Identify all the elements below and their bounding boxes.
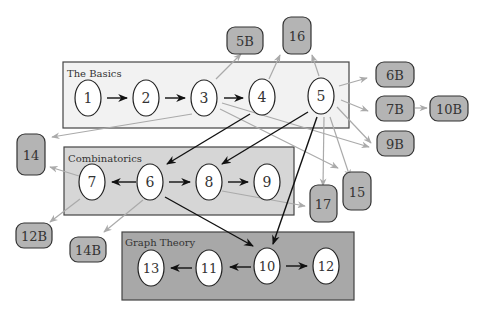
ext-10B[interactable]: 10B	[430, 96, 468, 121]
ext-17-label: 17	[315, 197, 332, 212]
node-13-label: 13	[143, 261, 160, 276]
node-1[interactable]: 1	[75, 80, 101, 116]
node-5-label: 5	[317, 88, 326, 104]
node-8[interactable]: 8	[196, 164, 222, 200]
ext-9B[interactable]: 9B	[377, 131, 414, 156]
ext-14[interactable]: 14	[17, 134, 45, 175]
node-11[interactable]: 11	[196, 250, 222, 286]
node-3[interactable]: 3	[191, 80, 217, 116]
ext-10B-label: 10B	[436, 102, 462, 117]
ext-15-label: 15	[349, 185, 366, 200]
ext-16[interactable]: 16	[283, 17, 311, 54]
ext-16-label: 16	[289, 29, 306, 44]
ext-14B[interactable]: 14B	[70, 237, 106, 262]
node-7-label: 7	[88, 174, 97, 190]
ext-12B-label: 12B	[21, 229, 47, 244]
ext-5B[interactable]: 5B	[227, 27, 263, 54]
node-12[interactable]: 12	[313, 248, 339, 284]
node-9-label: 9	[263, 174, 272, 190]
node-11-label: 11	[201, 261, 218, 276]
node-10[interactable]: 10	[254, 248, 280, 284]
node-1-label: 1	[84, 90, 93, 106]
node-13[interactable]: 13	[138, 250, 164, 286]
node-4[interactable]: 4	[249, 79, 275, 115]
external-nodes: 5B 16 6B 7B 10B 9B 14 17 15 12B 14B	[16, 17, 468, 262]
node-6-label: 6	[146, 174, 155, 190]
node-4-label: 4	[258, 89, 267, 105]
node-12-label: 12	[318, 259, 335, 274]
ext-7B[interactable]: 7B	[376, 96, 414, 121]
ext-12B[interactable]: 12B	[16, 223, 52, 248]
node-9[interactable]: 9	[254, 164, 280, 200]
group-graph-theory-label: Graph Theory	[125, 237, 196, 248]
ext-14-label: 14	[23, 148, 40, 163]
node-3-label: 3	[200, 90, 209, 106]
ext-6B-label: 6B	[386, 68, 404, 83]
dependency-diagram: The Basics Combinatorics Graph Theory	[0, 0, 482, 316]
group-basics-label: The Basics	[67, 68, 122, 79]
ext-17[interactable]: 17	[310, 185, 337, 222]
ext-14B-label: 14B	[75, 243, 101, 258]
ext-15[interactable]: 15	[343, 172, 371, 210]
group-combinatorics-label: Combinatorics	[68, 153, 142, 164]
node-6[interactable]: 6	[137, 164, 163, 200]
node-8-label: 8	[205, 174, 214, 190]
node-2[interactable]: 2	[133, 80, 159, 116]
ext-5B-label: 5B	[236, 34, 254, 49]
node-2-label: 2	[142, 90, 151, 106]
ext-6B[interactable]: 6B	[376, 62, 414, 87]
node-7[interactable]: 7	[79, 164, 105, 200]
node-10-label: 10	[259, 259, 276, 274]
ext-7B-label: 7B	[386, 102, 404, 117]
node-5[interactable]: 5	[308, 78, 334, 114]
ext-9B-label: 9B	[386, 137, 404, 152]
